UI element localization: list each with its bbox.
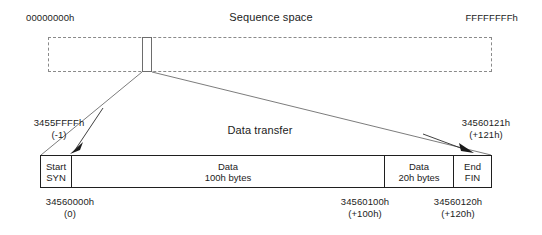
offset-label-0-hex: 34560000h (46, 196, 94, 207)
offset-label-0: 34560000h(0) (22, 196, 118, 219)
data-transfer-segment-bar: Start SYN Data 100h bytes Data 20h bytes… (40, 155, 492, 188)
left-boundary-offset: (-1) (51, 129, 66, 140)
segment-end-fin: End FIN (454, 156, 491, 187)
segment-end-fin-line1: End (464, 161, 481, 172)
right-boundary-hex: 34560121h (462, 117, 510, 128)
segment-data-100h-line2: 100h bytes (205, 172, 251, 183)
offset-label-100h-hex: 34560100h (341, 196, 389, 207)
offset-label-0-delta: (0) (64, 208, 76, 219)
right-boundary-arrowhead (459, 143, 474, 153)
offset-label-100h: 34560100h(+100h) (318, 196, 412, 219)
projection-line-left (41, 72, 142, 155)
segment-data-20h-line2: 20h bytes (398, 172, 439, 183)
segment-end-fin-line2: FIN (465, 172, 480, 183)
left-boundary-label: 3455FFFFh(-1) (16, 117, 102, 140)
sequence-space-band (48, 37, 492, 72)
segment-data-100h-line1: Data (218, 161, 238, 172)
offset-label-100h-delta: (+100h) (348, 208, 382, 219)
segment-start-syn-line2: SYN (46, 172, 66, 183)
sequence-space-title: Sequence space (171, 11, 371, 24)
highlighted-region-marker (142, 37, 152, 72)
left-boundary-arrowhead (70, 142, 83, 154)
segment-start-syn-line1: Start (46, 161, 66, 172)
left-boundary-hex: 3455FFFFh (34, 117, 85, 128)
segment-data-20h: Data 20h bytes (385, 156, 454, 187)
segment-data-100h: Data 100h bytes (72, 156, 385, 187)
offset-label-120h-hex: 34560120h (434, 196, 482, 207)
segment-data-20h-line1: Data (409, 161, 429, 172)
sequence-space-end-label: FFFFFFFFh (408, 12, 518, 24)
projection-line-right (152, 72, 491, 155)
right-boundary-label: 34560121h(+121h) (440, 117, 532, 140)
data-transfer-title: Data transfer (180, 124, 340, 137)
offset-label-120h-delta: (+120h) (441, 208, 475, 219)
sequence-space-diagram: 00000000h Sequence space FFFFFFFFh 3455F… (0, 0, 542, 235)
offset-label-120h: 34560120h(+120h) (411, 196, 505, 219)
segment-start-syn: Start SYN (41, 156, 72, 187)
right-boundary-offset: (+121h) (469, 129, 503, 140)
sequence-space-start-label: 00000000h (26, 12, 74, 24)
